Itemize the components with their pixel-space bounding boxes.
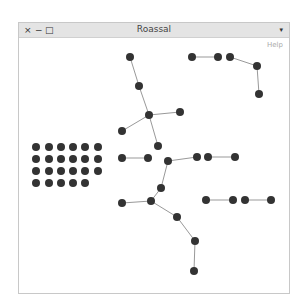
graph-node[interactable]	[81, 167, 89, 175]
graph-canvas[interactable]	[0, 0, 304, 308]
graph-node[interactable]	[45, 143, 53, 151]
graph-edge	[151, 201, 177, 217]
graph-node[interactable]	[204, 153, 212, 161]
graph-node[interactable]	[118, 199, 126, 207]
graph-edge	[194, 241, 195, 271]
graph-node[interactable]	[57, 179, 65, 187]
graph-node[interactable]	[69, 167, 77, 175]
graph-node[interactable]	[94, 167, 102, 175]
graph-node[interactable]	[255, 90, 263, 98]
graph-node[interactable]	[32, 143, 40, 151]
graph-node[interactable]	[32, 167, 40, 175]
graph-node[interactable]	[214, 53, 222, 61]
graph-node[interactable]	[69, 143, 77, 151]
graph-node[interactable]	[191, 237, 199, 245]
graph-node[interactable]	[81, 155, 89, 163]
graph-edge	[149, 112, 180, 115]
graph-edge	[130, 57, 139, 86]
graph-edge	[230, 57, 257, 66]
graph-node[interactable]	[157, 184, 165, 192]
graph-edge	[161, 161, 168, 188]
graph-node[interactable]	[45, 155, 53, 163]
graph-node[interactable]	[164, 157, 172, 165]
graph-node[interactable]	[45, 167, 53, 175]
graph-node[interactable]	[126, 53, 134, 61]
graph-node[interactable]	[57, 155, 65, 163]
graph-node[interactable]	[229, 196, 237, 204]
graph-node[interactable]	[94, 155, 102, 163]
graph-node[interactable]	[144, 154, 152, 162]
graph-node[interactable]	[135, 82, 143, 90]
graph-node[interactable]	[190, 267, 198, 275]
graph-edge	[139, 86, 149, 115]
graph-node[interactable]	[69, 179, 77, 187]
graph-edge	[122, 115, 149, 131]
graph-node[interactable]	[188, 53, 196, 61]
graph-node[interactable]	[253, 62, 261, 70]
graph-edge	[122, 201, 151, 203]
graph-node[interactable]	[94, 143, 102, 151]
graph-node[interactable]	[45, 179, 53, 187]
graph-node[interactable]	[81, 143, 89, 151]
graph-node[interactable]	[32, 155, 40, 163]
graph-node[interactable]	[226, 53, 234, 61]
graph-edge	[177, 217, 195, 241]
graph-node[interactable]	[202, 196, 210, 204]
graph-node[interactable]	[81, 179, 89, 187]
graph-node[interactable]	[145, 111, 153, 119]
graph-edge	[168, 157, 197, 161]
graph-node[interactable]	[69, 155, 77, 163]
graph-node[interactable]	[32, 179, 40, 187]
graph-node[interactable]	[147, 197, 155, 205]
graph-node[interactable]	[231, 153, 239, 161]
graph-node[interactable]	[176, 108, 184, 116]
graph-node[interactable]	[118, 154, 126, 162]
graph-node[interactable]	[57, 167, 65, 175]
graph-node[interactable]	[267, 196, 275, 204]
graph-edge	[257, 66, 259, 94]
graph-node[interactable]	[241, 196, 249, 204]
graph-node[interactable]	[118, 127, 126, 135]
graph-node[interactable]	[57, 143, 65, 151]
graph-node[interactable]	[173, 213, 181, 221]
graph-node[interactable]	[154, 142, 162, 150]
graph-node[interactable]	[193, 153, 201, 161]
graph-edge	[149, 115, 158, 146]
